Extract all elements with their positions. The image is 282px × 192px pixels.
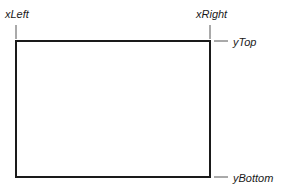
y-top-label: yTop (233, 36, 256, 48)
x-right-label: xRight (196, 8, 227, 20)
y-bottom-label: yBottom (233, 172, 273, 184)
x-left-label: xLeft (5, 8, 29, 20)
rectangle (16, 41, 210, 177)
rect-diagram (0, 0, 282, 192)
